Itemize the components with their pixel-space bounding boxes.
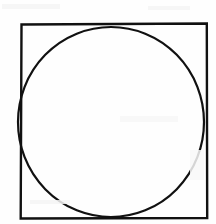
geometry-diagram bbox=[0, 0, 216, 224]
figure-canvas bbox=[0, 0, 216, 224]
background-rect bbox=[0, 0, 216, 224]
